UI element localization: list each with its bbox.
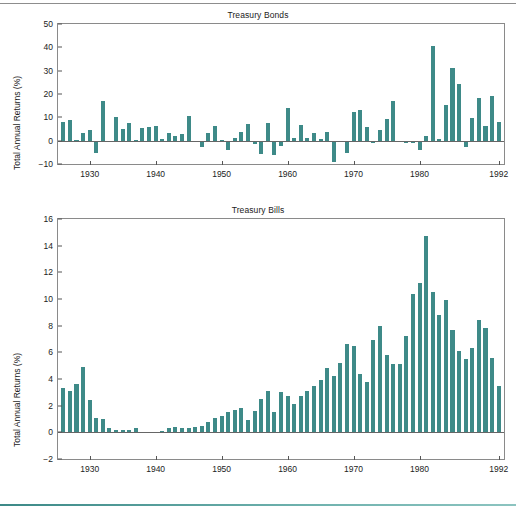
bar bbox=[167, 133, 171, 140]
bar-series-bonds bbox=[58, 24, 504, 164]
bar bbox=[457, 84, 461, 141]
bar bbox=[200, 426, 204, 433]
bar bbox=[299, 396, 303, 432]
bar bbox=[187, 116, 191, 141]
bar bbox=[272, 412, 276, 432]
x-tick-mark bbox=[222, 456, 223, 460]
y-tick-label: 30 bbox=[44, 66, 58, 76]
y-axis-label-bills: Total Annual Returns (%) bbox=[12, 353, 22, 447]
plot-area-bonds: −100102030405019301940195019601970198019… bbox=[57, 23, 505, 165]
y-tick-mark bbox=[58, 47, 62, 48]
bar bbox=[450, 68, 454, 140]
bar bbox=[94, 141, 98, 153]
bar bbox=[81, 133, 85, 141]
bar bbox=[239, 132, 243, 140]
y-tick-label: 4 bbox=[48, 374, 58, 384]
x-tick-label: 1940 bbox=[146, 464, 165, 474]
y-tick-label: 12 bbox=[44, 267, 58, 277]
bar bbox=[88, 130, 92, 141]
y-tick-mark bbox=[58, 352, 62, 353]
bar bbox=[490, 96, 494, 141]
bar bbox=[259, 399, 263, 432]
bar bbox=[404, 336, 408, 432]
bar bbox=[365, 127, 369, 140]
bar bbox=[127, 123, 131, 141]
bar bbox=[213, 126, 217, 141]
bar bbox=[444, 300, 448, 432]
bar bbox=[94, 418, 98, 433]
bar bbox=[398, 364, 402, 432]
x-tick-label: 1930 bbox=[80, 464, 99, 474]
chart-title-bills: Treasury Bills bbox=[0, 205, 516, 215]
x-tick-mark bbox=[156, 161, 157, 165]
bar bbox=[220, 416, 224, 432]
bar bbox=[431, 292, 435, 432]
bar bbox=[226, 412, 230, 432]
bar bbox=[246, 124, 250, 141]
x-tick-label: 1992 bbox=[489, 464, 508, 474]
y-tick-mark bbox=[58, 459, 62, 460]
bar bbox=[457, 351, 461, 432]
bar bbox=[352, 346, 356, 433]
x-tick-mark bbox=[499, 161, 500, 165]
bar bbox=[147, 127, 151, 141]
y-tick-label: 0 bbox=[48, 427, 58, 437]
y-tick-label: 2 bbox=[48, 401, 58, 411]
y-tick-label: 0 bbox=[48, 136, 58, 146]
y-tick-mark bbox=[58, 70, 62, 71]
x-tick-label: 1970 bbox=[344, 464, 363, 474]
x-tick-label: 1980 bbox=[410, 169, 429, 179]
x-tick-mark bbox=[354, 456, 355, 460]
x-tick-mark bbox=[288, 161, 289, 165]
chart-treasury-bills: Treasury Bills Total Annual Returns (%) … bbox=[0, 205, 516, 495]
bar bbox=[391, 101, 395, 140]
y-tick-mark bbox=[58, 379, 62, 380]
bar bbox=[497, 122, 501, 141]
y-tick-mark bbox=[58, 405, 62, 406]
bar bbox=[299, 125, 303, 141]
x-tick-mark bbox=[499, 456, 500, 460]
bar bbox=[266, 123, 270, 141]
bar bbox=[68, 391, 72, 432]
y-tick-mark bbox=[58, 94, 62, 95]
chart-treasury-bonds: Treasury Bonds Total Annual Returns (%) … bbox=[0, 10, 516, 195]
y-tick-mark bbox=[58, 140, 62, 141]
chart-title-bonds: Treasury Bonds bbox=[0, 10, 516, 20]
bar bbox=[325, 132, 329, 141]
x-tick-mark bbox=[90, 456, 91, 460]
bar bbox=[450, 330, 454, 433]
bar bbox=[81, 367, 85, 432]
bar bbox=[338, 363, 342, 432]
bar bbox=[286, 396, 290, 432]
bar bbox=[213, 418, 217, 433]
bar bbox=[497, 386, 501, 433]
y-tick-label: 40 bbox=[44, 42, 58, 52]
bar bbox=[259, 141, 263, 154]
y-tick-label: 8 bbox=[48, 321, 58, 331]
x-tick-mark bbox=[420, 456, 421, 460]
bar bbox=[74, 384, 78, 432]
y-tick-label: 50 bbox=[44, 19, 58, 29]
bar bbox=[418, 141, 422, 150]
y-tick-mark bbox=[58, 272, 62, 273]
bar bbox=[246, 420, 250, 432]
bar bbox=[312, 133, 316, 141]
bar bbox=[483, 328, 487, 432]
bar bbox=[305, 391, 309, 432]
bar bbox=[88, 400, 92, 432]
bar bbox=[233, 410, 237, 433]
bar bbox=[352, 112, 356, 140]
x-tick-label: 1930 bbox=[80, 169, 99, 179]
bar bbox=[114, 117, 118, 140]
bar bbox=[371, 340, 375, 432]
y-tick-label: 20 bbox=[44, 89, 58, 99]
bar bbox=[332, 376, 336, 432]
x-tick-mark bbox=[156, 456, 157, 460]
top-divider-rule bbox=[0, 3, 516, 4]
bar bbox=[206, 422, 210, 433]
bar bbox=[365, 382, 369, 433]
x-tick-label: 1960 bbox=[278, 169, 297, 179]
bar bbox=[444, 105, 448, 141]
y-tick-label: −10 bbox=[39, 159, 58, 169]
x-tick-label: 1960 bbox=[278, 464, 297, 474]
